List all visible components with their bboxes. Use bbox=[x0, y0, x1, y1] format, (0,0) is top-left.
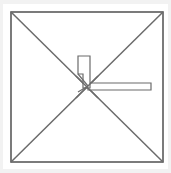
figure-container: Square plan with diagonals and center fi… bbox=[0, 0, 171, 173]
horizontal-bar-fixture bbox=[88, 83, 151, 90]
technical-drawing-canvas: Square plan with diagonals and center fi… bbox=[0, 0, 171, 173]
